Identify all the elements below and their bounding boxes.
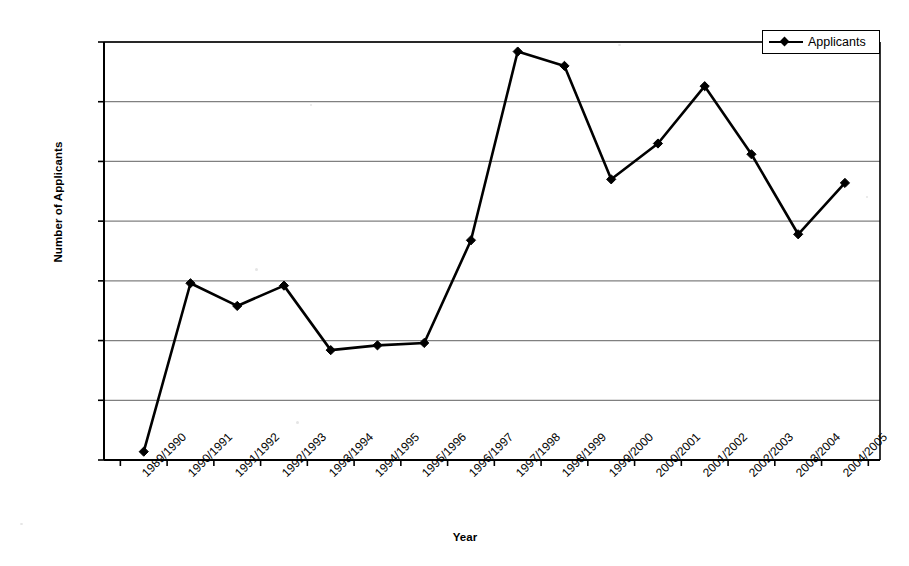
x-tick-label: 1995/1996: [419, 430, 469, 480]
x-tick-label: 1999/2000: [606, 430, 656, 480]
x-tick-label: 1996/1997: [466, 430, 516, 480]
x-tick-label: 2004/2005: [840, 430, 890, 480]
x-tick-label: 2001/2002: [700, 430, 750, 480]
x-tick-label: 1990/1991: [185, 430, 235, 480]
legend-entry-applicants: Applicants: [763, 31, 879, 53]
line-chart: Number of Applicants Year 25,00030,00035…: [0, 0, 909, 566]
x-tick-label: 2000/2001: [653, 430, 703, 480]
x-tick-label: 1997/1998: [513, 430, 563, 480]
x-tick-label: 2003/2004: [793, 430, 843, 480]
legend[interactable]: Applicants: [762, 30, 880, 54]
legend-line-diamond-icon: [769, 36, 803, 48]
x-tick-label: 1998/1999: [559, 430, 609, 480]
x-tick-label: 1991/1992: [232, 430, 282, 480]
x-tick-label: 1992/1993: [279, 430, 329, 480]
x-tick-label: 2002/2003: [746, 430, 796, 480]
x-tick-label: 1989/1990: [139, 430, 189, 480]
x-tick-label: 1994/1995: [372, 430, 422, 480]
legend-label-applicants: Applicants: [808, 35, 866, 49]
x-axis-tick-labels: 1989/19901990/19911991/19921992/19931993…: [0, 0, 909, 566]
x-tick-label: 1993/1994: [326, 430, 376, 480]
